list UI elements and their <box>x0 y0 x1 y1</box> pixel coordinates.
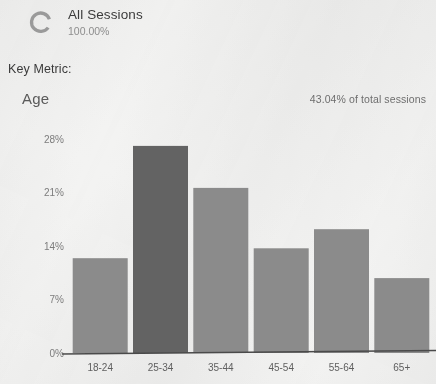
bar-45-54[interactable] <box>254 248 309 353</box>
y-axis-tick-label: 7% <box>50 294 65 305</box>
x-axis-tick-label[interactable]: 35-44 <box>208 362 234 373</box>
x-axis-tick-label[interactable]: 45-54 <box>268 362 294 373</box>
y-axis-tick-label: 0% <box>50 348 65 359</box>
bar-25-34[interactable] <box>133 146 188 353</box>
bar-65+[interactable] <box>374 278 429 353</box>
x-axis-tick-label[interactable]: 55-64 <box>329 362 355 373</box>
y-axis-tick-label: 28% <box>44 134 64 145</box>
bar-18-24[interactable] <box>73 258 128 353</box>
age-bar-chart: 0%7%14%21%28%18-2425-3435-4445-5455-6465… <box>0 0 436 384</box>
bar-55-64[interactable] <box>314 229 369 353</box>
x-axis-tick-label[interactable]: 18-24 <box>87 362 113 373</box>
y-axis-tick-label: 14% <box>44 241 64 252</box>
x-axis-tick-label[interactable]: 25-34 <box>148 362 174 373</box>
y-axis-tick-label: 21% <box>44 187 64 198</box>
x-axis-tick-label[interactable]: 65+ <box>393 362 410 373</box>
bar-35-44[interactable] <box>193 188 248 353</box>
